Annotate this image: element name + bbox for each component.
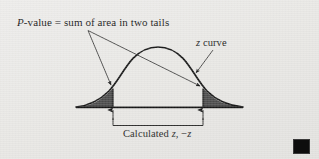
pvalue-text: -value = sum of area in two tails (24, 16, 169, 28)
pvalue-annotation-label: P-value = sum of area in two tails (17, 17, 169, 28)
calculated-z-symbol-negative: z (187, 128, 191, 139)
calculated-z-bracket (113, 118, 203, 126)
calculated-separator: , − (176, 128, 187, 139)
pvalue-symbol: P (17, 16, 24, 28)
pvalue-leader-left-tail (88, 31, 111, 86)
calculated-text: Calculated (123, 128, 172, 139)
zcurve-leader (196, 50, 213, 73)
z-curve-line (76, 47, 243, 107)
calculated-z-label: Calculated z, −z (123, 129, 191, 140)
left-tail-shaded-area (76, 88, 113, 107)
zcurve-text: curve (200, 37, 227, 48)
statistics-figure: P-value = sum of area in two tails z cur… (0, 0, 319, 159)
zcurve-annotation-label: z curve (196, 38, 227, 49)
black-square-marker (293, 139, 310, 154)
right-tail-shaded-area (203, 88, 243, 107)
